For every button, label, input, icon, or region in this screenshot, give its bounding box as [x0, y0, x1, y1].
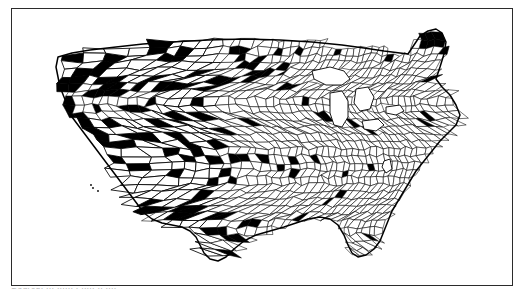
county-area[interactable]: [392, 96, 398, 106]
county-area[interactable]: [57, 84, 69, 92]
county-area[interactable]: [374, 226, 383, 235]
figure-page: Source: ... ...... . ..... .. ....: [0, 0, 522, 298]
us-county-map[interactable]: [12, 9, 514, 287]
county-area[interactable]: [277, 164, 285, 171]
water-body: [354, 87, 374, 111]
county-area[interactable]: [149, 162, 172, 170]
county-area[interactable]: [117, 97, 128, 107]
county-area[interactable]: [389, 148, 394, 156]
figure-frame: [11, 8, 513, 286]
map-canvas[interactable]: [12, 9, 514, 287]
island-marker: [90, 184, 92, 186]
island-marker: [97, 190, 99, 192]
county-area[interactable]: [104, 147, 122, 157]
island-marker: [92, 187, 94, 189]
county-area[interactable]: [126, 164, 151, 171]
figure-caption: Source: ... ...... . ..... .. ....: [11, 288, 481, 298]
county-area[interactable]: [172, 161, 185, 169]
county-area[interactable]: [369, 226, 374, 235]
county-area[interactable]: [309, 177, 318, 183]
county-area[interactable]: [121, 157, 151, 164]
water-body: [330, 91, 348, 127]
county-area[interactable]: [257, 175, 267, 184]
water-body: [312, 67, 350, 85]
caption-text: Source: ... ...... . ..... .. ....: [11, 288, 116, 291]
county-area[interactable]: [128, 97, 138, 105]
county-area[interactable]: [340, 149, 347, 156]
